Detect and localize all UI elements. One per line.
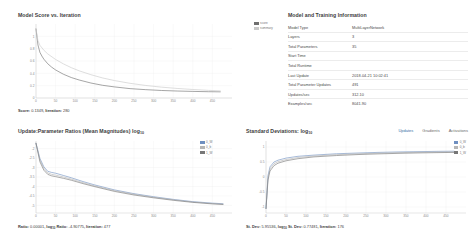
legend-swatch [254, 22, 259, 25]
svg-text:100: 100 [73, 99, 79, 103]
svg-text:350: 350 [171, 99, 177, 103]
svg-text:300: 300 [151, 99, 157, 103]
svg-text:-4.5: -4.5 [29, 194, 35, 198]
svg-text:200: 200 [112, 214, 118, 218]
ratio-value: 0.00001 [30, 224, 44, 229]
svg-text:200: 200 [112, 99, 118, 103]
legend-item[interactable]: 0_W [200, 140, 212, 144]
model-score-plot: 05010015020025030035040045000.20.40.60.8… [14, 20, 236, 106]
model-info-table: Model Type MultiLayerNetwork Layers 3 To… [288, 23, 468, 108]
ratios-title-sub: 10 [140, 131, 144, 135]
svg-text:350: 350 [403, 214, 409, 218]
legend-label: 0_b [460, 145, 465, 149]
svg-text:50: 50 [54, 214, 58, 218]
legend-item[interactable]: 1_W [200, 151, 212, 155]
svg-text:400: 400 [190, 99, 196, 103]
legend-item[interactable]: 0_W [454, 140, 466, 144]
svg-text:-3.5: -3.5 [29, 175, 35, 179]
info-value: 312.10 [352, 92, 364, 97]
stdev-title: Standard Deviations: log10 [246, 128, 312, 135]
score-status-iter-label: , Iteration: [43, 108, 63, 113]
info-value: MultiLayerNetwork [352, 25, 384, 30]
svg-text:-2: -2 [32, 147, 35, 151]
legend-label: 0_b [206, 145, 211, 149]
svg-text:150: 150 [92, 214, 98, 218]
stdev-plot: 050100150200250300350400450-1-0.500.51 [244, 137, 470, 221]
table-row: Last Update 2018-04-21 10:02:41 [288, 71, 468, 81]
ratios-legend: 0_W 0_b 1_W [200, 140, 212, 155]
table-row: Updates/sec 312.10 [288, 90, 468, 100]
log-stdev-label2: St. Dev: [287, 224, 304, 229]
table-row: Total Parameters 35 [288, 42, 468, 52]
update-parameter-ratios-panel: Update:Parameter Ratios (Mean Magnitudes… [14, 128, 236, 236]
log-ratio-value: -4.90775 [69, 224, 84, 229]
svg-text:1: 1 [263, 145, 265, 149]
log-ratio-label2: Ratio: [55, 224, 68, 229]
info-value: 491 [352, 82, 359, 87]
legend-swatch [200, 141, 205, 144]
info-key: Start Time [288, 53, 352, 58]
legend-item[interactable]: summary [254, 26, 273, 30]
stdev-title-sub: 10 [308, 131, 312, 135]
legend-label: summary [260, 26, 273, 30]
legend-swatch [200, 146, 205, 149]
info-key: Total Parameters [288, 44, 352, 49]
svg-text:300: 300 [383, 214, 389, 218]
info-key: Total Runtime [288, 63, 352, 68]
tab-updates[interactable]: Updates [398, 128, 413, 133]
ratio-label: Ratio: [18, 224, 30, 229]
svg-text:0: 0 [35, 214, 37, 218]
legend-label: 1_W [206, 151, 212, 155]
legend-item[interactable]: 0_b [454, 145, 466, 149]
training-ui-dashboard: Model Score vs. Iteration 05010015020025… [0, 0, 475, 247]
svg-text:100: 100 [73, 214, 79, 218]
tab-gradients[interactable]: Gradients [422, 128, 439, 133]
legend-swatch [454, 141, 459, 144]
log-stdev-value: 0.77481 [304, 224, 318, 229]
svg-text:250: 250 [131, 214, 137, 218]
stdev-tabs: Updates Gradients Activations [398, 128, 468, 133]
stdev-title-text: Standard Deviations: log [246, 128, 308, 134]
svg-text:-4: -4 [32, 185, 35, 189]
stdev-iter-label: , Iteration: [318, 224, 338, 229]
legend-label: 1_W [460, 151, 466, 155]
svg-text:250: 250 [363, 214, 369, 218]
svg-text:-5: -5 [32, 204, 35, 208]
score-status-iter: 280 [63, 108, 70, 113]
svg-text:150: 150 [323, 214, 329, 218]
table-row: Layers 3 [288, 33, 468, 43]
svg-text:0: 0 [33, 96, 35, 100]
info-value: 2018-04-21 10:02:41 [352, 73, 388, 78]
ratios-title-text: Update:Parameter Ratios (Mean Magnitudes… [18, 128, 140, 134]
svg-text:400: 400 [190, 214, 196, 218]
info-key: Layers [288, 34, 352, 39]
svg-text:450: 450 [210, 99, 216, 103]
legend-item[interactable]: 0_b [200, 145, 212, 149]
legend-label: 0_W [460, 140, 466, 144]
legend-item[interactable]: score [254, 21, 273, 25]
model-info-title: Model and Training Information [288, 12, 367, 18]
standard-deviations-panel: Standard Deviations: log10 Updates Gradi… [244, 128, 470, 236]
stdev-legend: 0_W 0_b 1_W [454, 140, 466, 155]
info-key: Last Update [288, 73, 352, 78]
legend-swatch [454, 151, 459, 154]
ratio-iter-label: , Iteration: [84, 224, 104, 229]
svg-text:350: 350 [171, 214, 177, 218]
svg-text:450: 450 [443, 214, 449, 218]
svg-text:0.8: 0.8 [30, 47, 35, 51]
log-stdev-label: , log [276, 224, 284, 229]
model-info-panel: Model and Training Information Model Typ… [288, 12, 468, 118]
tab-activations[interactable]: Activations [449, 128, 468, 133]
table-row: Examples/sec 8041.90 [288, 99, 468, 108]
info-key: Model Type [288, 25, 352, 30]
model-score-legend: score summary [254, 21, 273, 30]
svg-text:250: 250 [131, 99, 137, 103]
legend-item[interactable]: 1_W [454, 151, 466, 155]
svg-text:1: 1 [33, 35, 35, 39]
table-row: Total Parameter Updates 491 [288, 80, 468, 90]
svg-text:-3: -3 [32, 166, 35, 170]
model-score-status: Score: 0.1349, Iteration: 280 [18, 108, 70, 113]
svg-text:0.2: 0.2 [30, 84, 35, 88]
stdev-iter-value: 176 [338, 224, 345, 229]
svg-text:300: 300 [151, 214, 157, 218]
